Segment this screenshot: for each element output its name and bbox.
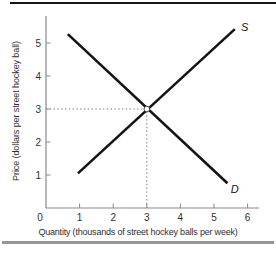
y-tick-label: 4: [35, 71, 41, 82]
supply-curve-label: S: [241, 21, 249, 33]
x-tick-label: 5: [211, 212, 217, 223]
supply-demand-chart: 012345612345SD: [0, 0, 276, 254]
y-axis-title: Price (dollars per street hockey ball): [11, 41, 21, 181]
x-tick-label: 4: [178, 212, 184, 223]
bottom-rule: [2, 241, 274, 244]
x-tick-label: 1: [77, 212, 83, 223]
y-tick-label: 2: [35, 137, 41, 148]
supply-curve: [78, 29, 235, 173]
demand-curve-label: D: [231, 183, 239, 195]
y-tick-label: 1: [35, 170, 41, 181]
x-axis-title: Quantity (thousands of street hockey bal…: [0, 227, 276, 237]
x-tick-label: 0: [37, 212, 43, 223]
y-tick-label: 3: [35, 104, 41, 115]
x-tick-label: 2: [110, 212, 116, 223]
x-tick-label: 6: [245, 212, 251, 223]
x-tick-label: 3: [144, 212, 150, 223]
supply-demand-figure: 012345612345SD Price (dollars per street…: [0, 0, 276, 254]
equilibrium-point: [144, 106, 150, 112]
y-tick-label: 5: [35, 38, 41, 49]
